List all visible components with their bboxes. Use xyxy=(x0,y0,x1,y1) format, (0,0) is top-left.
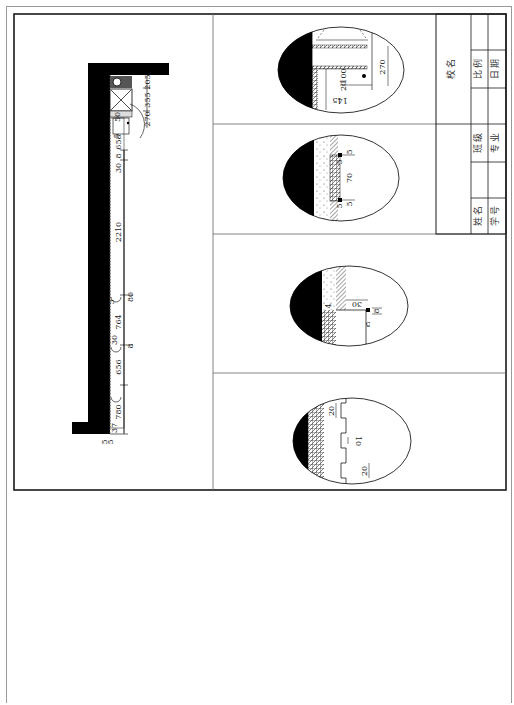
major-label: 专 业 xyxy=(489,133,500,154)
dim-30a: 30 xyxy=(114,163,123,173)
dim-205: 205 xyxy=(143,74,152,89)
dim-656: 656 xyxy=(114,359,123,374)
title-block: 校 名 比 例 日 期 班 级 专 业 姓 名 学 号 xyxy=(436,14,506,234)
detail2-dim-5c: 5 xyxy=(345,201,354,206)
detail1-dim-145: 145 xyxy=(332,96,347,105)
detail1-dim-270: 270 xyxy=(378,59,387,74)
dim-37: 37 xyxy=(110,423,119,433)
floor-plan: 205 355 270 50 5 658 8 30 2210 80 5 764 … xyxy=(72,63,169,445)
dim-50: 50 xyxy=(113,112,122,122)
drawing-canvas: 校 名 比 例 日 期 班 级 专 业 姓 名 学 号 xyxy=(0,0,514,705)
dim-80: 80 xyxy=(126,292,135,302)
drawing-frame xyxy=(14,14,506,490)
detail2-dim-70: 70 xyxy=(345,173,354,183)
detail-circle-2: 5 5 70 5 5 xyxy=(270,130,399,230)
school-name-label: 校 名 xyxy=(445,59,456,80)
detail3-dim-4: 4 xyxy=(324,303,333,308)
detail2-dim-5b: 5 xyxy=(335,159,344,164)
dim-764: 764 xyxy=(114,314,123,329)
detail4-dim-20a: 20 xyxy=(327,406,336,416)
student-id-label: 学 号 xyxy=(489,206,500,227)
name-label: 姓 名 xyxy=(472,206,483,227)
class-label: 班 级 xyxy=(472,133,483,154)
dim-658: 658 xyxy=(114,134,123,149)
detail3-dim-30: 30 xyxy=(352,300,362,309)
detail-circle-4: 20 10 20 xyxy=(290,395,411,495)
detail2-dim-5d: 5 xyxy=(335,203,344,208)
detail2-dim-5a: 5 xyxy=(345,149,354,154)
dim-30b: 30 xyxy=(110,335,119,345)
detail4-dim-20b: 20 xyxy=(360,466,369,476)
detail-circle-3: 30 8 5 4 xyxy=(280,260,408,360)
dim-780: 780 xyxy=(114,404,123,419)
detail3-dim-8: 8 xyxy=(372,308,381,313)
detail1-dim-100: 100 xyxy=(339,68,348,83)
dim-5b: 5 xyxy=(107,299,116,304)
scale-label: 比 例 xyxy=(472,59,483,80)
detail4-dim-10: 10 xyxy=(354,436,363,446)
dim-270: 270 xyxy=(143,111,152,126)
detail3-dim-5: 5 xyxy=(365,320,370,329)
dim-355: 355 xyxy=(143,92,152,107)
dim-2210: 2210 xyxy=(114,222,123,242)
date-label: 日 期 xyxy=(490,59,500,80)
detail-circle-1: 270 20 100 145 xyxy=(270,20,404,120)
dim-8a: 8 xyxy=(114,153,123,158)
dim-8b: 8 xyxy=(126,343,135,348)
dim-5d: 5 xyxy=(106,439,115,444)
